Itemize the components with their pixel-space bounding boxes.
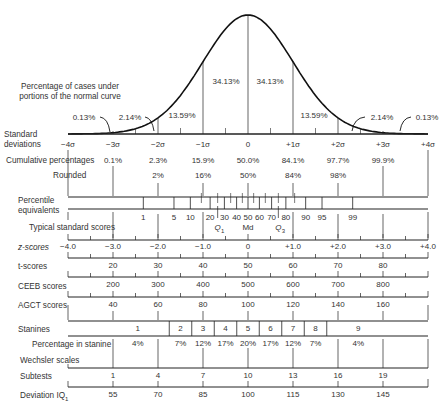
sigma-label: −1σ [196,141,210,149]
percentile-value: 99 [348,214,357,222]
stanine-pct-value: 4% [132,340,144,348]
cumulative-value: 99.9% [372,157,395,165]
agct-value: 100 [241,301,254,309]
z-value: −4.0 [60,243,76,251]
cumulative-value: 84.1% [282,157,305,165]
sigma-label: +4σ [421,141,435,149]
ceeb-value: 300 [151,281,164,289]
t-value: 60 [289,262,298,270]
label-deviation-iq: Deviation IQ1 [20,392,68,402]
ceeb-value: 700 [331,281,344,289]
ceeb-value: 400 [196,281,209,289]
cumulative-value: 15.9% [192,157,215,165]
z-value: +3.0 [375,243,391,251]
label-ceeb: CEEB scores [18,283,67,291]
stanine-pct-value: 4% [352,340,364,348]
subtest-value: 4 [156,372,160,380]
stanine-value: 4 [223,325,227,333]
subtest-value: 13 [289,372,298,380]
stanine-value: 3 [201,325,205,333]
cumulative-value: 97.7% [327,157,350,165]
z-value: −2.0 [150,243,166,251]
rounded-value: 2% [152,172,164,180]
z-value: −3.0 [105,243,121,251]
quartile-q3: Q [275,224,281,232]
percentile-value: 70 [267,214,276,222]
percentile-value: 1 [141,214,145,222]
pct-minus1-0: 34.13% [212,78,239,86]
label-standard-deviations-1: Standard [4,131,37,139]
stanine-pct-value: 20% [240,340,256,348]
z-value: +4.0 [420,243,436,251]
label-percentile-2: equivalents [18,207,59,215]
quartile-q1-sub: 1 [221,228,224,234]
deviation-iq-value: 115 [287,391,300,399]
sigma-label: 0 [246,141,250,149]
agct-value: 40 [109,301,118,309]
agct-value: 140 [331,301,344,309]
sigma-label: +1σ [286,141,300,149]
quartile-q3-sub: 3 [282,228,285,234]
ceeb-value: 200 [106,281,119,289]
label-stanines: Stanines [18,326,50,334]
z-value: +1.0 [285,243,301,251]
percentile-value: 10 [186,214,195,222]
sigma-label: −4σ [61,141,75,149]
subtest-value: 19 [379,372,388,380]
label-subtests: Subtests [20,373,52,381]
percentile-value: 30 [220,214,229,222]
percentile-value: 5 [172,214,176,222]
quartile-q1: Q [215,224,221,232]
stanine-pct-value: 17% [262,340,278,348]
label-t-scores: t-scores [18,263,47,271]
percentile-value: 60 [255,214,264,222]
agct-value: 80 [199,301,208,309]
label-cumulative: Cumulative percentages [6,157,94,165]
stanine-value: 6 [268,325,272,333]
rounded-value: 16% [195,172,211,180]
deviation-iq-value: 70 [154,391,163,399]
stanine-value: 5 [246,325,250,333]
ceeb-value: 500 [241,281,254,289]
z-value: −1.0 [195,243,211,251]
pct-plus3-plus4: 0.13% [416,114,439,122]
label-rounded: Rounded [53,172,86,180]
subtest-value: 10 [244,372,253,380]
ceeb-value: 800 [376,281,389,289]
t-value: 70 [334,262,343,270]
cumulative-value: 0.1% [104,157,122,165]
percentile-value: 80 [281,214,290,222]
stanine-value: 8 [313,325,317,333]
label-typical: Typical standard scores [29,224,115,232]
sigma-label: −2σ [151,141,165,149]
label-standard-deviations-2: deviations [4,141,41,149]
stanine-pct-value: 12% [195,340,211,348]
pct-0-plus1: 34.13% [256,78,283,86]
t-value: 50 [244,262,253,270]
stanine-pct-value: 12% [285,340,301,348]
label-z-scores: z-scores [18,244,49,252]
stanine-pct-value: 17% [217,340,233,348]
z-value: 0 [246,243,250,251]
sigma-label: +3σ [376,141,390,149]
curve-note-text: Percentage of cases under portions of th… [14,82,126,102]
cumulative-value: 2.3% [149,157,167,165]
pointer-arrow [100,117,110,132]
pct-minus4-minus3: 0.13% [73,114,96,122]
stanine-pct-value: 7% [310,340,322,348]
agct-value: 160 [376,301,389,309]
stanine-pct-value: 7% [175,340,187,348]
ceeb-value: 600 [286,281,299,289]
t-value: 80 [379,262,388,270]
label-wechsler: Wechsler scales [20,357,79,365]
pct-minus3-minus2: 2.14% [119,114,142,122]
t-value: 30 [154,262,163,270]
rounded-value: 98% [330,172,346,180]
agct-value: 120 [286,301,299,309]
percentile-value: 20 [206,214,215,222]
deviation-iq-value: 85 [199,391,208,399]
t-value: 20 [109,262,118,270]
stanine-value: 2 [178,325,182,333]
deviation-iq-value: 145 [376,391,389,399]
t-value: 40 [199,262,208,270]
